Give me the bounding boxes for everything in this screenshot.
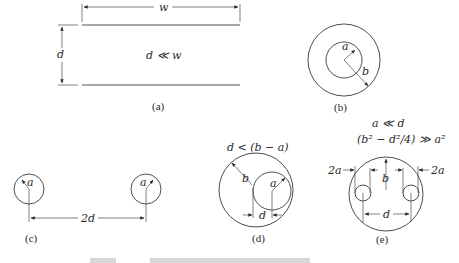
panel-d-eccentric: d < (b − a) b a d (d) — [219, 141, 293, 245]
outer-radius-label: b — [362, 65, 369, 78]
panel-c-two-wires: a a 2d (c) — [14, 174, 161, 245]
panel-d-label: (d) — [252, 232, 265, 245]
outer-radius-label: b — [242, 172, 249, 185]
panel-e-shielded-pair: a ≪ d (b² − d²/4) ≫ a² 2a 2a b d (e) — [327, 117, 445, 246]
right-radius-arrow — [146, 180, 153, 189]
panel-a-parallel-plates: w d d ≪ w (a) — [57, 1, 240, 113]
condition-1: a ≪ d — [372, 117, 405, 130]
condition-label: d ≪ w — [146, 49, 182, 62]
condition-2: (b² − d²/4) ≫ a² — [357, 133, 445, 146]
offset-label: d — [259, 209, 266, 222]
condition-label: d < (b − a) — [227, 141, 289, 154]
inner-radius-label: a — [270, 177, 277, 190]
panel-c-label: (c) — [25, 232, 38, 245]
figure-caption-clipped — [90, 258, 310, 263]
width-label: w — [159, 1, 169, 14]
panel-e-label: (e) — [376, 233, 389, 246]
panel-a-label: (a) — [152, 100, 165, 113]
spacing-label: 2d — [80, 212, 95, 225]
left-radius-label: a — [27, 176, 34, 189]
right-radius-label: a — [140, 176, 147, 189]
right-diam-label: 2a — [430, 164, 445, 177]
panel-b-label: (b) — [334, 101, 347, 114]
left-diam-label: 2a — [327, 164, 342, 177]
separation-label: d — [57, 48, 64, 61]
inner-radius-label: a — [342, 40, 349, 53]
panel-b-coaxial: a b (b) — [308, 24, 380, 114]
transmission-line-geometries-figure: w d d ≪ w (a) a b (b) a a 2d (c) d < (b … — [0, 0, 459, 263]
shield-radius-label: b — [382, 172, 389, 185]
outer-conductor — [219, 153, 293, 227]
spacing-label: d — [383, 208, 390, 221]
